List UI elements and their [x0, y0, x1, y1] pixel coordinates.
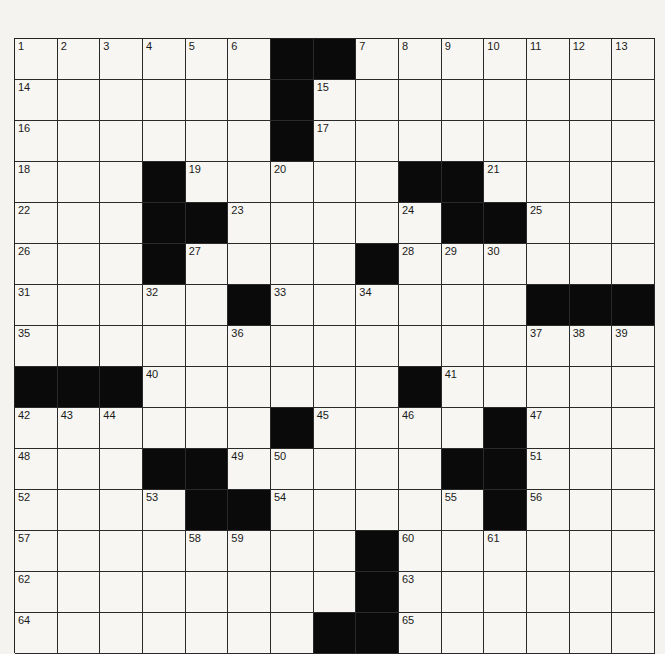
crossword-cell[interactable]: 3: [100, 39, 143, 80]
crossword-cell[interactable]: [100, 285, 143, 326]
crossword-cell[interactable]: 42: [15, 408, 58, 449]
crossword-cell[interactable]: [100, 490, 143, 531]
crossword-cell[interactable]: [399, 326, 442, 367]
crossword-cell[interactable]: 13: [612, 39, 655, 80]
crossword-cell[interactable]: 61: [484, 531, 527, 572]
crossword-cell[interactable]: [100, 162, 143, 203]
crossword-cell[interactable]: 6: [228, 39, 271, 80]
crossword-cell[interactable]: 27: [186, 244, 229, 285]
crossword-cell[interactable]: 49: [228, 449, 271, 490]
crossword-cell[interactable]: [143, 572, 186, 613]
crossword-cell[interactable]: 39: [612, 326, 655, 367]
crossword-cell[interactable]: [356, 203, 399, 244]
crossword-cell[interactable]: 10: [484, 39, 527, 80]
crossword-cell[interactable]: [399, 285, 442, 326]
crossword-cell[interactable]: 31: [15, 285, 58, 326]
crossword-cell[interactable]: 30: [484, 244, 527, 285]
crossword-cell[interactable]: [570, 162, 613, 203]
crossword-cell[interactable]: 60: [399, 531, 442, 572]
crossword-cell[interactable]: 4: [143, 39, 186, 80]
crossword-cell[interactable]: [100, 613, 143, 654]
crossword-cell[interactable]: [100, 244, 143, 285]
crossword-cell[interactable]: [58, 531, 101, 572]
crossword-cell[interactable]: [570, 244, 613, 285]
crossword-cell[interactable]: [612, 121, 655, 162]
crossword-cell[interactable]: 35: [15, 326, 58, 367]
crossword-cell[interactable]: [527, 80, 570, 121]
crossword-cell[interactable]: 40: [143, 367, 186, 408]
crossword-cell[interactable]: [186, 408, 229, 449]
crossword-cell[interactable]: 33: [271, 285, 314, 326]
crossword-cell[interactable]: 12: [570, 39, 613, 80]
crossword-cell[interactable]: [271, 531, 314, 572]
crossword-cell[interactable]: 2: [58, 39, 101, 80]
crossword-cell[interactable]: 34: [356, 285, 399, 326]
crossword-cell[interactable]: 32: [143, 285, 186, 326]
crossword-cell[interactable]: 8: [399, 39, 442, 80]
crossword-cell[interactable]: [186, 326, 229, 367]
crossword-cell[interactable]: [527, 121, 570, 162]
crossword-cell[interactable]: 23: [228, 203, 271, 244]
crossword-cell[interactable]: [612, 162, 655, 203]
crossword-cell[interactable]: [570, 613, 613, 654]
crossword-cell[interactable]: [143, 80, 186, 121]
crossword-cell[interactable]: 52: [15, 490, 58, 531]
crossword-cell[interactable]: [612, 531, 655, 572]
crossword-cell[interactable]: [527, 613, 570, 654]
crossword-cell[interactable]: 51: [527, 449, 570, 490]
crossword-cell[interactable]: [612, 244, 655, 285]
crossword-cell[interactable]: [356, 326, 399, 367]
crossword-cell[interactable]: [570, 449, 613, 490]
crossword-cell[interactable]: [612, 203, 655, 244]
crossword-cell[interactable]: [442, 408, 485, 449]
crossword-cell[interactable]: 38: [570, 326, 613, 367]
crossword-cell[interactable]: [58, 572, 101, 613]
crossword-cell[interactable]: [271, 244, 314, 285]
crossword-cell[interactable]: [143, 121, 186, 162]
crossword-cell[interactable]: [612, 367, 655, 408]
crossword-cell[interactable]: [356, 490, 399, 531]
crossword-cell[interactable]: 46: [399, 408, 442, 449]
crossword-cell[interactable]: [228, 121, 271, 162]
crossword-cell[interactable]: [356, 80, 399, 121]
crossword-cell[interactable]: 62: [15, 572, 58, 613]
crossword-cell[interactable]: [570, 490, 613, 531]
crossword-cell[interactable]: [612, 449, 655, 490]
crossword-cell[interactable]: [612, 572, 655, 613]
crossword-cell[interactable]: [314, 449, 357, 490]
crossword-cell[interactable]: [271, 613, 314, 654]
crossword-cell[interactable]: 22: [15, 203, 58, 244]
crossword-cell[interactable]: [58, 121, 101, 162]
crossword-cell[interactable]: 14: [15, 80, 58, 121]
crossword-cell[interactable]: 55: [442, 490, 485, 531]
crossword-cell[interactable]: 17: [314, 121, 357, 162]
crossword-cell[interactable]: [271, 326, 314, 367]
crossword-cell[interactable]: 59: [228, 531, 271, 572]
crossword-cell[interactable]: [58, 613, 101, 654]
crossword-cell[interactable]: [314, 490, 357, 531]
crossword-cell[interactable]: [356, 162, 399, 203]
crossword-cell[interactable]: 64: [15, 613, 58, 654]
crossword-cell[interactable]: [527, 531, 570, 572]
crossword-cell[interactable]: [186, 613, 229, 654]
crossword-cell[interactable]: [612, 490, 655, 531]
crossword-cell[interactable]: [58, 244, 101, 285]
crossword-cell[interactable]: [228, 408, 271, 449]
crossword-cell[interactable]: [314, 203, 357, 244]
crossword-cell[interactable]: [399, 449, 442, 490]
crossword-cell[interactable]: [186, 572, 229, 613]
crossword-cell[interactable]: 44: [100, 408, 143, 449]
crossword-cell[interactable]: [442, 613, 485, 654]
crossword-cell[interactable]: 11: [527, 39, 570, 80]
crossword-cell[interactable]: 28: [399, 244, 442, 285]
crossword-cell[interactable]: 25: [527, 203, 570, 244]
crossword-cell[interactable]: [228, 162, 271, 203]
crossword-cell[interactable]: 48: [15, 449, 58, 490]
crossword-cell[interactable]: 20: [271, 162, 314, 203]
crossword-cell[interactable]: [100, 121, 143, 162]
crossword-cell[interactable]: [314, 244, 357, 285]
crossword-cell[interactable]: [100, 449, 143, 490]
crossword-cell[interactable]: 7: [356, 39, 399, 80]
crossword-cell[interactable]: 65: [399, 613, 442, 654]
crossword-cell[interactable]: [271, 203, 314, 244]
